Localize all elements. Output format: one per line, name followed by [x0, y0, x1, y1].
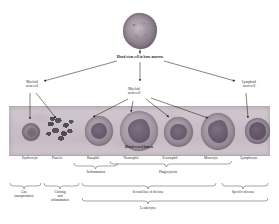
bracket-clotting: [44, 183, 79, 189]
neutrophil-nucleus: [128, 119, 149, 143]
eosinophil-nucleus: [170, 124, 186, 141]
monocyte-nucleus: [208, 120, 228, 143]
erythrocyte-center: [27, 128, 36, 137]
label-specific-defense: Specific defense: [218, 190, 268, 194]
label-root-stem-cell: Blood stem cell in bone marrow: [98, 55, 182, 59]
bracket-gas-transportation: [10, 183, 41, 189]
bracket-group-upper: [74, 161, 232, 169]
blood-stem-cell-image: [123, 13, 157, 49]
basophil-nucleus: [91, 123, 107, 140]
label-cell-lymphocyte: Lymphocyte: [230, 156, 268, 160]
arrow-root-to-lymphoid: [164, 61, 235, 81]
stem-cell-granules: [126, 16, 155, 46]
lymphocyte-nucleus: [249, 122, 266, 140]
label-cell-neutrophil: Neutrophil: [113, 156, 149, 160]
hematopoiesis-diagram: Blood stem cell in bone marrow Myeloid s…: [0, 0, 279, 224]
label-lymphoid-stem-cell: Lymphoid stem cell: [230, 80, 268, 88]
bracket-inflammation: [74, 163, 118, 169]
cell-erythrocyte: [22, 123, 40, 141]
label-gas-transportation: Gas transportation: [8, 190, 40, 198]
bracket-second-line: [82, 183, 216, 189]
label-inflammation: Inflammation: [75, 170, 117, 174]
label-cell-eosinophil: Eosinophil: [152, 156, 188, 160]
label-cell-basophil: Basophil: [76, 156, 110, 160]
label-phagocytosis: Phagocytosis: [147, 170, 189, 174]
label-second-line-of-defense: Second line of defense: [112, 190, 184, 194]
cell-platelet-cluster: [44, 115, 78, 145]
label-blood-vessel-lumen: Blood vessel lumen: [108, 145, 170, 149]
cell-lymphocyte: [245, 118, 270, 144]
label-clotting-inflammation: Clotting and inflammation: [44, 190, 76, 202]
arrow-root-to-myeloid-left: [44, 61, 117, 81]
bracket-leukocytes: [82, 198, 268, 204]
bracket-specific-defense: [222, 183, 268, 189]
cell-eosinophil: [164, 117, 193, 147]
label-cell-platelet: Platelet: [40, 156, 74, 160]
cell-monocyte: [201, 113, 235, 150]
bracket-phagocytosis: [110, 161, 232, 167]
label-leukocytes: Leukocytes: [126, 206, 170, 210]
label-myeloid-stem-cell-left: Myeloid stem cell: [14, 80, 50, 88]
label-cell-monocyte: Monocyte: [194, 156, 228, 160]
cell-basophil: [85, 116, 113, 146]
label-myeloid-stem-cell-center: Myeloid stem cell: [116, 87, 152, 95]
